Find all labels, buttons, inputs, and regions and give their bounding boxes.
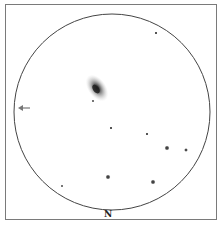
north-label: N (100, 209, 116, 219)
eyepiece-field (0, 0, 222, 227)
star (145, 132, 148, 135)
star (61, 185, 63, 187)
stars (61, 31, 188, 187)
field-of-view-circle (14, 14, 210, 210)
star (105, 174, 110, 179)
star (109, 126, 112, 129)
star (184, 148, 188, 152)
star (164, 145, 169, 150)
galaxy (81, 71, 113, 106)
arrow-icon (18, 105, 30, 111)
star (154, 31, 157, 34)
star (150, 179, 155, 184)
star (92, 100, 94, 102)
